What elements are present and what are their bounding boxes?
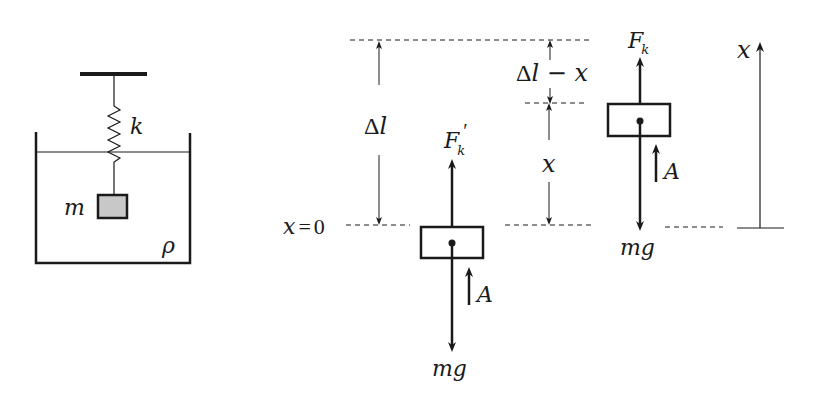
setup-figure: k m ρ — [36, 74, 190, 263]
mass-label: m — [64, 195, 85, 220]
buoyancy-label: A — [662, 159, 680, 184]
spring-constant-label: k — [130, 114, 143, 139]
x-axis: x — [737, 36, 784, 228]
buoyancy-label: A — [475, 282, 493, 307]
spring-force-label: Fk′ — [443, 120, 468, 158]
displacement-label: x — [542, 150, 556, 178]
fluid-density-label: ρ — [161, 233, 175, 258]
extension-label: Δl — [364, 112, 387, 140]
weight-label: mg — [620, 235, 655, 260]
axis-label: x — [737, 36, 751, 64]
spring-force-label: Fk — [627, 28, 649, 57]
displaced-state: Δl − x x Fk A mg — [516, 28, 680, 260]
mass-block — [98, 195, 127, 218]
equilibrium-state: x=0 Δl Fk′ A mg — [283, 45, 493, 381]
origin-label: x=0 — [283, 214, 325, 239]
physics-diagram: k m ρ x=0 Δl Fk′ A — [0, 0, 819, 408]
weight-label: mg — [432, 356, 467, 381]
remaining-extension-label: Δl − x — [516, 59, 588, 87]
spring-icon — [108, 74, 120, 195]
